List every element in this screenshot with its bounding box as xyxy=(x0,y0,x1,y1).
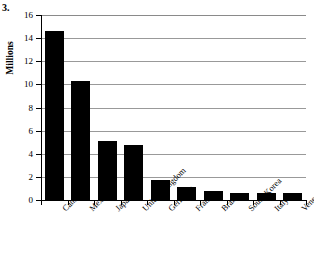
y-tick-label: 8 xyxy=(7,104,33,113)
y-tick-label: 16 xyxy=(7,11,33,20)
y-tick-label: 4 xyxy=(7,150,33,159)
y-tick-label: 12 xyxy=(7,57,33,66)
gridline xyxy=(41,15,306,16)
x-axis-category-labels: CanadaMexicoJapanUnited KingdomGermanyFr… xyxy=(0,200,314,268)
y-tick-label: 2 xyxy=(7,173,33,182)
bar xyxy=(45,31,64,200)
gridline xyxy=(41,38,306,39)
bar-chart-figure: 3. Millions 0246810121416 CanadaMexicoJa… xyxy=(0,0,314,268)
y-tick-label: 10 xyxy=(7,80,33,89)
y-axis-line xyxy=(41,15,42,201)
y-tick-label: 6 xyxy=(7,127,33,136)
bar xyxy=(71,81,90,200)
y-tick-label: 14 xyxy=(7,34,33,43)
gridline xyxy=(41,61,306,62)
